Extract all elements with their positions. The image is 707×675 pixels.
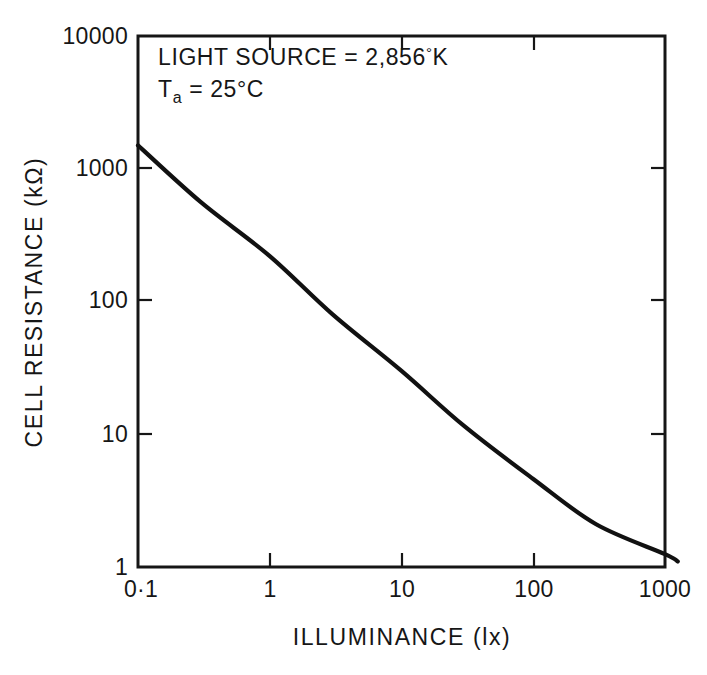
annotation-temp-symbol: T (158, 76, 173, 102)
annotation-temp-value: = 25°C (182, 76, 264, 102)
y-tick-label-100: 100 (89, 287, 128, 313)
degree-sign-icon: ° (426, 44, 433, 61)
y-axis-title: CELL RESISTANCE (kΩ) (21, 157, 47, 448)
annotation-temp-subscript: a (173, 89, 183, 106)
x-tick-label-1: 1 (263, 576, 276, 602)
x-tick-label-1000: 1000 (639, 576, 691, 602)
annotation-light-source-unit: K (432, 44, 448, 70)
x-axis-title: ILLUMINANCE (lx) (293, 624, 512, 650)
x-tick-label-10: 10 (389, 576, 415, 602)
y-tick-label-10: 10 (102, 421, 128, 447)
y-tick-label-10000: 10000 (63, 23, 128, 49)
annotation-light-source: LIGHT SOURCE = 2,856°K (158, 44, 448, 70)
figure-container: 10000 1000 100 10 1 0·1 1 10 100 1000 CE… (0, 0, 707, 675)
y-tick-label-1000: 1000 (76, 155, 128, 181)
annotation-light-source-text: LIGHT SOURCE = 2,856 (158, 44, 426, 70)
log-log-chart: 10000 1000 100 10 1 0·1 1 10 100 1000 CE… (0, 0, 707, 675)
x-tick-label-100: 100 (514, 576, 553, 602)
chart-background (0, 0, 707, 675)
x-tick-label-0.1: 0·1 (124, 576, 158, 602)
